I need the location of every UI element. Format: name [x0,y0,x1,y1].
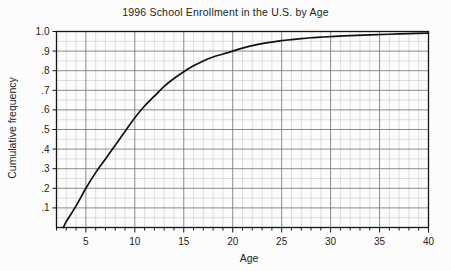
y-tick-label: .3 [41,163,50,174]
x-tick-label: 20 [227,236,239,247]
chart-plot-area: 1.0.9.8.7.6.5.4.3.2.1 510152025303540 Cu… [0,0,451,271]
x-tick-label: 40 [423,236,435,247]
y-tick-label: .7 [41,85,50,96]
x-axis-tick-labels: 510152025303540 [83,236,434,247]
y-tick-label: .5 [41,124,50,135]
y-tick-label: .2 [41,183,50,194]
chart-figure: 1996 School Enrollment in the U.S. by Ag… [0,0,451,271]
y-axis-title: Cumulative frequency [6,76,18,178]
x-tick-label: 30 [325,236,337,247]
x-tick-label: 35 [374,236,386,247]
x-tick-label: 5 [83,236,89,247]
y-axis-tick-labels: 1.0.9.8.7.6.5.4.3.2.1 [36,26,50,213]
x-tick-label: 10 [129,236,141,247]
x-axis-title: Age [240,252,259,264]
x-tick-label: 25 [276,236,288,247]
y-tick-label: .1 [41,202,50,213]
y-tick-label: .6 [41,104,50,115]
y-tick-label: .4 [41,144,50,155]
y-tick-label: .9 [41,46,50,57]
y-tick-label: .8 [41,65,50,76]
x-tick-label: 15 [178,236,190,247]
axis-tick-marks [53,32,429,233]
y-tick-label: 1.0 [36,26,50,37]
